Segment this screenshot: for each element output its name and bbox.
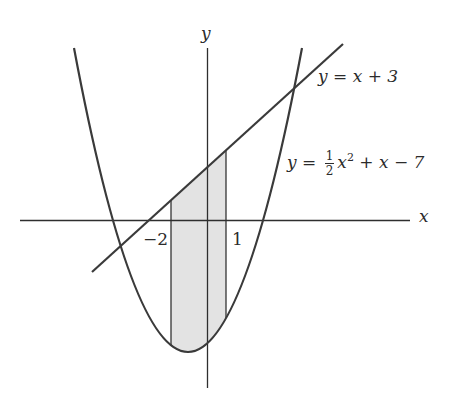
parabola-eq-fraction: 1 2	[325, 150, 335, 177]
parabola-eq-rest: + x − 7	[359, 152, 424, 172]
line-eq-rhs: x + 3	[353, 66, 398, 86]
fraction-denominator: 2	[325, 164, 335, 177]
parabola-equation-label: y = 1 2 x2 + x − 7	[287, 150, 424, 177]
area-between-curves-diagram	[0, 0, 463, 398]
fraction-numerator: 1	[325, 150, 335, 164]
shaded-area	[171, 150, 226, 351]
parabola-eq-lhs: y	[287, 152, 297, 172]
parabola-eq-equals: =	[302, 152, 316, 172]
parabola-eq-exponent: 2	[347, 151, 354, 164]
line-equation-label: y = x + 3	[318, 68, 398, 85]
line-eq-lhs: y	[318, 66, 328, 86]
y-axis-label: y	[201, 25, 211, 42]
tick-label-1: 1	[232, 231, 243, 248]
parabola-eq-x: x	[337, 152, 347, 172]
line-eq-equals: =	[333, 66, 347, 86]
tick-label-minus-2: −2	[143, 231, 168, 248]
x-axis-label: x	[419, 208, 429, 225]
